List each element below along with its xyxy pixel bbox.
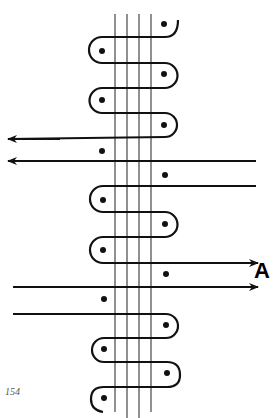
page-number: 154 <box>5 386 20 397</box>
label-a: A <box>254 260 270 282</box>
weaving-diagram <box>0 0 280 418</box>
warp-threads <box>115 14 151 418</box>
weft-path <box>8 20 257 412</box>
